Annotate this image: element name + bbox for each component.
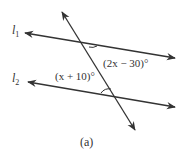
line-l2 xyxy=(28,82,175,107)
label-l2: l2 xyxy=(12,71,19,87)
angle-label-bottom: (x + 10)° xyxy=(55,70,95,83)
figure-caption: (a) xyxy=(80,135,93,149)
parallel-lines-diagram: l1 l2 (2x − 30)° (x + 10)° (a) xyxy=(0,0,189,161)
line-l1 xyxy=(25,33,175,58)
angle-arc-top xyxy=(89,46,97,47)
angle-label-top: (2x − 30)° xyxy=(103,57,148,70)
label-l1: l1 xyxy=(12,23,19,39)
